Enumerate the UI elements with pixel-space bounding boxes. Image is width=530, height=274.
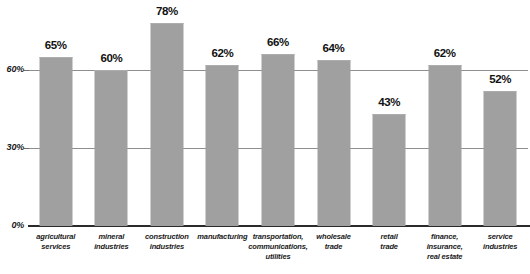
x-axis-category-label: mineral industries [80,232,142,252]
y-axis-tick-label-0: 0% [0,221,28,230]
bar-value-label: 65% [45,40,67,52]
bar-group: 62%finance, insurance, real estate [417,0,473,274]
bar-group: 78%construction industries [139,0,195,274]
x-axis-category-label: manufacturing [191,232,253,242]
bar-group: 43%retail trade [361,0,417,274]
bar[interactable] [95,70,128,226]
bar-value-label: 78% [156,6,178,18]
bar[interactable] [39,57,72,226]
bar[interactable] [373,114,406,226]
y-axis-tick-label-60: 60% [0,65,28,74]
bar[interactable] [428,65,461,226]
x-axis-category-label: construction industries [136,232,198,252]
y-axis-tick-0: 0% [0,226,28,227]
bar-value-label: 43% [378,97,400,109]
bar-value-label: 60% [100,53,122,65]
x-axis-category-label: transportation, communications, utilitie… [247,232,309,262]
bar-value-label: 62% [212,48,234,60]
bar[interactable] [206,65,239,226]
y-axis-tick-30: 30% [0,148,28,149]
bar-value-label: 62% [434,48,456,60]
bar-value-label: 66% [267,37,289,49]
y-axis-tick-60: 60% [0,70,28,71]
bar-value-label: 64% [323,43,345,55]
x-axis-category-label: wholesale trade [303,232,365,252]
x-axis-category-label: retail trade [358,232,420,252]
bar-chart: 60% 30% 0% 65%agricultural services60%mi… [0,0,530,274]
bar-series: 65%agricultural services60%mineral indus… [28,0,528,274]
bar-value-label: 52% [489,74,511,86]
x-axis-category-label: service industries [469,232,530,252]
bar-group: 60%mineral industries [84,0,140,274]
bar-group: 62%manufacturing [195,0,251,274]
bar[interactable] [484,91,517,226]
x-axis-category-label: agricultural services [25,232,87,252]
bar-group: 66%transportation, communications, utili… [250,0,306,274]
bar-group: 64%wholesale trade [306,0,362,274]
bar-group: 52%service industries [472,0,528,274]
x-axis-category-label: finance, insurance, real estate [414,232,476,262]
bar[interactable] [317,60,350,226]
y-axis-tick-label-30: 30% [0,143,28,152]
bar-group: 65%agricultural services [28,0,84,274]
bar[interactable] [261,54,294,226]
bar[interactable] [150,23,183,226]
